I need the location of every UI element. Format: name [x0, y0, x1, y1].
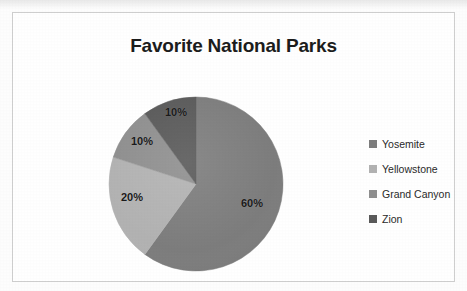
slice-label-yosemite: 60%	[241, 197, 263, 209]
slice-label-grand-canyon: 10%	[131, 135, 153, 147]
legend-item-grand-canyon[interactable]: Grand Canyon	[369, 181, 467, 206]
legend-item-zion[interactable]: Zion	[369, 206, 467, 231]
legend-swatch-icon	[369, 140, 377, 148]
slice-label-zion: 10%	[165, 106, 187, 118]
legend-swatch-icon	[369, 165, 377, 173]
legend-item-label: Zion	[382, 213, 402, 225]
chart-frame: Favorite National Parks 60% 20% 10% 10%	[12, 12, 455, 282]
legend-item-label: Yosemite	[382, 138, 425, 150]
pie-svg	[97, 85, 297, 285]
legend-item-label: Yellowstone	[382, 163, 438, 175]
scanned-page: Favorite National Parks 60% 20% 10% 10%	[0, 0, 467, 291]
scan-smudge	[0, 0, 467, 9]
chart-legend: Yosemite Yellowstone Grand Canyon Zion	[369, 131, 467, 231]
legend-item-yellowstone[interactable]: Yellowstone	[369, 156, 467, 181]
slice-label-yellowstone: 20%	[121, 191, 143, 203]
pie-chart: 60% 20% 10% 10%	[97, 85, 297, 285]
legend-swatch-icon	[369, 215, 377, 223]
chart-title: Favorite National Parks	[13, 35, 454, 57]
pie-shading	[109, 97, 283, 271]
legend-item-yosemite[interactable]: Yosemite	[369, 131, 467, 156]
legend-swatch-icon	[369, 190, 377, 198]
legend-item-label: Grand Canyon	[382, 188, 450, 200]
